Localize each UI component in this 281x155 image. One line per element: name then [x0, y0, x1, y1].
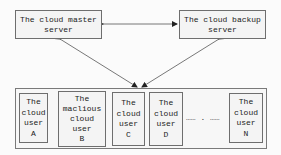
backup-server-label: The cloud backup server	[182, 15, 263, 34]
diagram-canvas: The cloud master server The cloud backup…	[0, 0, 281, 155]
backup-users-arrow	[142, 39, 219, 87]
master-server-box: The cloud master server	[15, 10, 102, 39]
user-box-b: The maclious cloud user B	[58, 91, 106, 147]
user-box-c: The cloud user C	[112, 92, 145, 146]
user-box-a: The cloud user A	[19, 93, 48, 143]
user-label: The cloud user D	[154, 98, 178, 140]
user-label: The cloud user A	[21, 97, 45, 139]
ellipsis: …… . ……	[186, 113, 220, 122]
user-label: The maclious cloud user B	[63, 94, 101, 144]
user-box-n: The cloud user N	[229, 93, 263, 143]
master-users-arrow	[60, 39, 137, 87]
user-label: The cloud user C	[116, 98, 140, 140]
user-box-d: The cloud user D	[149, 92, 183, 146]
master-server-label: The cloud master server	[18, 15, 99, 34]
user-label: The cloud user N	[234, 97, 258, 139]
backup-server-box: The cloud backup server	[179, 10, 266, 39]
